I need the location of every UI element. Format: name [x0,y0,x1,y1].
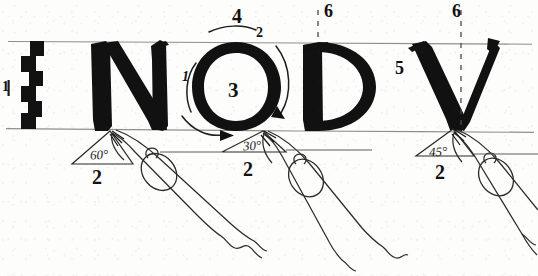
annotation-o-stroke-4: 4 [232,6,242,26]
angle-label-middle: 30° [243,138,262,152]
annotation-o-stroke-1: 1 [182,70,189,84]
pen-right [453,130,538,255]
annotation-v-stem-6: 6 [452,2,461,20]
annotation-o-counter-3: 3 [228,80,239,101]
ink-drawing [0,0,538,276]
annotation-pen-label-right: 2 [435,162,445,182]
wedge-baseline-extensions [160,150,538,154]
annotation-o-stroke-2: 2 [256,26,263,40]
angle-label-left: 60° [90,148,109,162]
nib-width-ladder [21,41,44,129]
annotation-ladder-tick: 1 [2,80,9,94]
letter-d [303,42,376,131]
cap-line [8,42,532,45]
annotation-d-stem-6: 6 [324,2,333,20]
angle-label-right: 45° [429,145,448,159]
calligraphy-worksheet-image: 1 1 2 3 4 5 6 6 2 2 2 60° 30° 45° [0,0,538,276]
annotation-pen-label-left: 2 [92,167,102,187]
annotation-v-stroke-5: 5 [395,59,404,77]
letter-v [408,38,500,131]
letter-n [91,40,169,131]
annotation-pen-label-middle: 2 [243,159,253,179]
